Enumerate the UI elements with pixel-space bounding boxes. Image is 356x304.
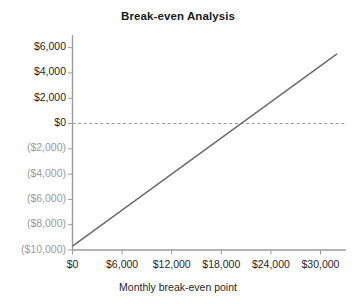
data-series-line: [73, 54, 338, 246]
x-axis-tick-label: $18,000: [202, 258, 240, 270]
break-even-chart: Break-even Analysis $6,000$4,000$2,000$0…: [0, 0, 356, 304]
y-axis-tick-label: ($6,000): [0, 192, 66, 204]
x-axis-tick-label: $24,000: [252, 258, 290, 270]
x-axis-tick-label: $0: [67, 258, 79, 270]
y-axis-tick-label: ($8,000): [0, 217, 66, 229]
y-axis-tick-label: $0: [0, 116, 66, 128]
y-axis-tick-label: ($4,000): [0, 167, 66, 179]
x-axis-title: Monthly break-even point: [0, 281, 356, 293]
x-axis-tick-label: $30,000: [301, 258, 339, 270]
x-axis-tick-label: $6,000: [106, 258, 138, 270]
y-axis-tick-label: $6,000: [0, 40, 66, 52]
y-axis-tick-label: ($10,000): [0, 243, 66, 255]
y-axis-tick-label: ($2,000): [0, 141, 66, 153]
y-axis-tick-label: $4,000: [0, 65, 66, 77]
y-axis-tick-label: $2,000: [0, 91, 66, 103]
x-axis-tick-label: $12,000: [153, 258, 191, 270]
